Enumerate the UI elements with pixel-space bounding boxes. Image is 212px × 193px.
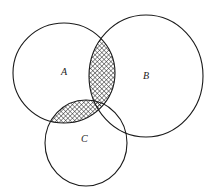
venn-diagram: A B C xyxy=(0,0,212,193)
set-c-label: C xyxy=(81,133,88,144)
set-b-label: B xyxy=(143,70,149,81)
set-a-label: A xyxy=(60,66,68,77)
